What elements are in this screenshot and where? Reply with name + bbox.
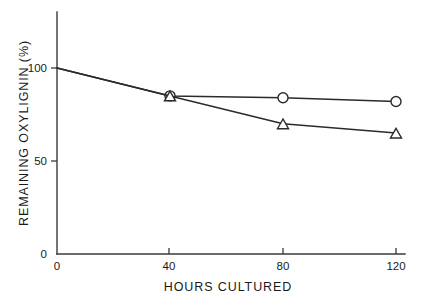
x-tick-label-40: 40 — [163, 260, 176, 272]
x-tick-label-80: 80 — [277, 260, 290, 272]
chart-figure: 100 50 0 0 40 80 120 HOURS CULTURED REMA… — [0, 0, 423, 304]
y-tick-label-0: 0 — [41, 248, 47, 260]
series-layer — [57, 68, 402, 138]
x-tick-label-0: 0 — [54, 260, 60, 272]
x-tick-label-120: 120 — [386, 260, 405, 272]
data-point-circle-80 — [278, 93, 288, 103]
series-line-circle — [57, 68, 396, 101]
y-axis-title: REMAINING OXYLIGNIN (%) — [17, 40, 31, 226]
line-chart-plot: 100 50 0 0 40 80 120 HOURS CULTURED REMA… — [0, 0, 423, 304]
data-point-circle-120 — [391, 96, 401, 106]
y-tick-label-50: 50 — [34, 155, 47, 167]
x-axis-title: HOURS CULTURED — [164, 280, 292, 294]
